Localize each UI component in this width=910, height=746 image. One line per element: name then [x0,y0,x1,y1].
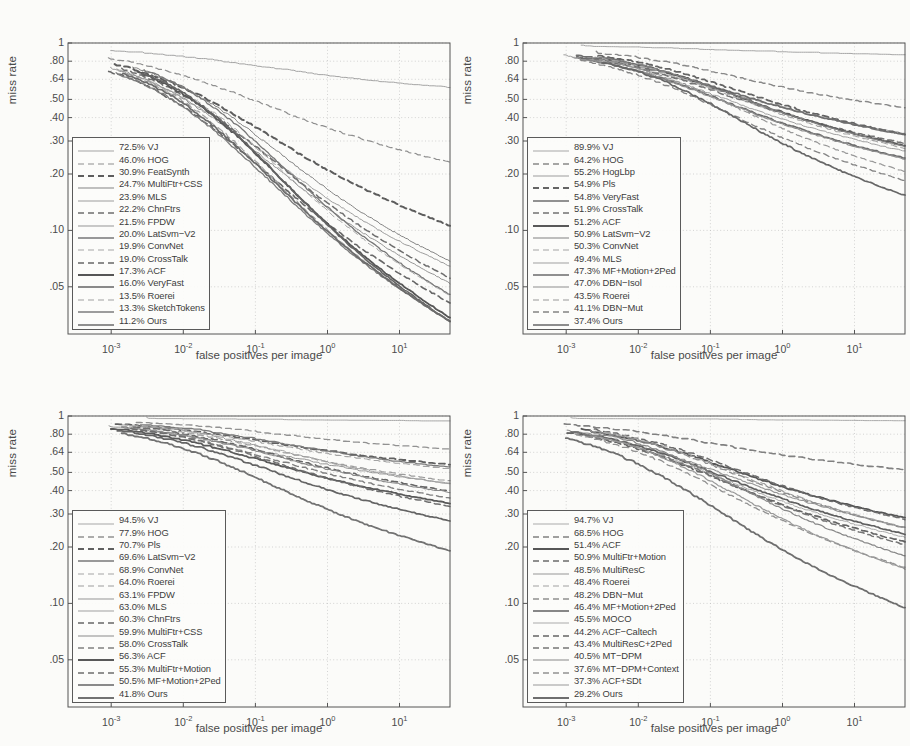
curves-svg [0,373,455,746]
legend-label: 55.3% MultiFtr+Motion [119,664,211,674]
plot-area-4: 1.80.64.50.40.30.20.10.0510-310-210-1100… [455,373,910,746]
legend-line-swatch [77,167,115,177]
legend-line-swatch [532,167,570,177]
legend-item: 68.5% HOG [532,526,679,538]
series-line-vj [571,418,905,421]
y-tick-label: .50 [49,92,64,104]
legend-item: 50.3% ConvNet [532,240,676,252]
legend-item: 89.9% VJ [532,141,676,153]
legend-label: 64.0% Roerei [119,577,175,587]
legend-label: 54.9% Pls [574,179,615,189]
legend-label: 64.2% HOG [574,155,624,165]
legend-item: 55.3% MultiFtr+Motion [77,663,221,675]
legend-label: 51.2% ACF [574,217,621,227]
legend-item: 37.4% Ours [532,314,676,326]
legend-label: 70.7% Pls [119,540,160,550]
legend-line-swatch [532,676,570,686]
legend-line-swatch [532,229,570,239]
y-tick-label: 1 [58,409,64,421]
legend-label: 51.4% ACF [574,540,621,550]
legend-line-swatch [77,577,115,587]
legend-item: 64.0% Roerei [77,576,221,588]
legend-item: 20.0% LatSvm−V2 [77,228,205,240]
legend-line-swatch [77,664,115,674]
legend-label: 94.7% VJ [574,515,613,525]
legend-label: 94.5% VJ [119,515,158,525]
plot-area-1: 1.80.64.50.40.30.20.10.0510-310-210-1100… [0,0,455,373]
legend-item: 51.2% ACF [532,215,676,227]
y-axis-title: miss rate [461,20,473,140]
y-tick-label: .80 [504,54,519,66]
legend-item: 70.7% Pls [77,539,221,551]
legend-item: 43.5% Roerei [532,290,676,302]
legend-item: 63.1% FPDW [77,588,221,600]
legend-item: 40.5% MT−DPM [532,650,679,662]
legend-label: 45.5% MOCO [574,614,631,624]
legend-label: 48.5% MultiResC [574,565,645,575]
legend-line-swatch [77,229,115,239]
plot-panel-4: 1.80.64.50.40.30.20.10.0510-310-210-1100… [455,373,910,746]
legend-line-swatch [77,528,115,538]
legend-item: 94.7% VJ [532,514,679,526]
legend-line-swatch [77,217,115,227]
legend-item: 47.0% DBN−Isol [532,277,676,289]
plot-area-3: 1.80.64.50.40.30.20.10.0510-310-210-1100… [0,373,455,746]
legend-label: 23.9% MLS [119,192,167,202]
plot-panel-1: 1.80.64.50.40.30.20.10.0510-310-210-1100… [0,0,455,373]
legend-label: 50.9% MultiFtr+Motion [574,552,666,562]
series-line-hog [564,424,905,470]
legend-item: 47.3% MF+Motion+2Ped [532,265,676,277]
legend-item: 41.8% Ours [77,687,221,699]
legend-line-swatch [77,676,115,686]
y-tick-label: .20 [504,167,519,179]
x-axis-title: false positives per image [523,349,905,361]
legend-line-swatch [77,540,115,550]
y-tick-label: .10 [49,596,64,608]
y-tick-label: .50 [504,92,519,104]
legend-label: 41.8% Ours [119,689,168,699]
y-tick-label: .40 [49,484,64,496]
y-tick-label: .64 [504,445,519,457]
y-tick-label: .05 [504,653,519,665]
legend-line-swatch [532,664,570,674]
y-tick-label: .80 [49,54,64,66]
legend-label: 55.2% HogLbp [574,167,635,177]
y-tick-label: .10 [49,223,64,235]
y-tick-label: .80 [504,427,519,439]
series-line-acf [111,429,450,504]
legend-label: 21.5% FPDW [119,217,175,227]
legend-item: 22.2% ChnFtrs [77,203,205,215]
legend-label: 50.3% ConvNet [574,241,638,251]
x-axis-title: false positives per image [68,349,450,361]
legend-label: 37.4% Ours [574,316,623,326]
legend-item: 51.9% CrossTalk [532,203,676,215]
curves-svg [455,0,910,373]
y-tick-label: .10 [504,596,519,608]
legend-label: 47.3% MF+Motion+2Ped [574,266,676,276]
legend-label: 48.4% Roerei [574,577,630,587]
y-tick-label: .20 [49,167,64,179]
legend-line-swatch [532,142,570,152]
legend-line-swatch [77,266,115,276]
legend-line-swatch [532,590,570,600]
plot-area-2: 1.80.64.50.40.30.20.10.0510-310-210-1100… [455,0,910,373]
legend-item: 23.9% MLS [77,191,205,203]
legend-item: 49.4% MLS [532,253,676,265]
y-tick-label: .05 [49,653,64,665]
legend-item: 72.5% VJ [77,141,205,153]
legend-line-swatch [532,241,570,251]
legend-line-swatch [77,179,115,189]
legend-line-swatch [532,179,570,189]
legend-item: 54.8% VeryFast [532,191,676,203]
legend-line-swatch [532,528,570,538]
legend-label: 47.0% DBN−Isol [574,278,642,288]
legend-line-swatch [532,217,570,227]
legend-line-swatch [532,689,570,699]
legend-label: 63.1% FPDW [119,590,175,600]
legend-label: 56.3% ACF [119,651,166,661]
y-tick-label: 1 [58,36,64,48]
legend-item: 17.3% ACF [77,265,205,277]
legend-item: 54.9% Pls [532,178,676,190]
legend-item: 37.6% MT−DPM+Context [532,663,679,675]
y-tick-label: 1 [513,409,519,421]
